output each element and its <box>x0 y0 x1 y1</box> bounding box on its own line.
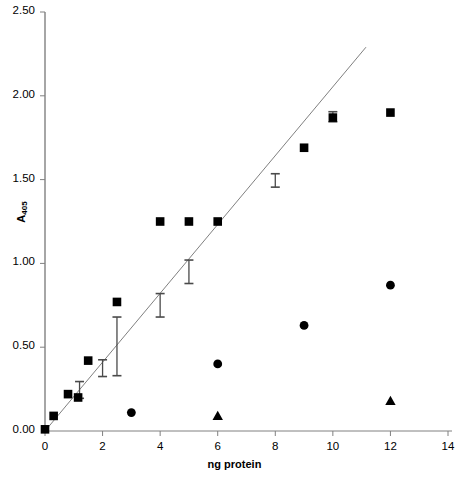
data-point-square <box>64 390 73 399</box>
data-point-square <box>300 143 309 152</box>
data-point-square <box>84 356 93 365</box>
y-axis-title: A405 <box>15 192 29 232</box>
error-bar <box>98 360 107 377</box>
y-axis-title-base: A <box>15 215 27 223</box>
y-tick-label: 1.00 <box>0 255 35 267</box>
x-tick-label: 2 <box>88 440 118 452</box>
x-axis-title: ng protein <box>0 458 469 470</box>
data-point-square <box>113 298 122 307</box>
regression-line-layer <box>45 47 366 431</box>
y-tick-label: 2.00 <box>0 88 35 100</box>
data-point-circle <box>300 321 309 330</box>
x-tick-label: 6 <box>203 440 233 452</box>
data-point-square <box>74 393 83 402</box>
x-tick-label: 14 <box>433 440 463 452</box>
data-point-triangle <box>385 396 395 405</box>
y-tick-label: 0.00 <box>0 423 35 435</box>
x-tick-label: 10 <box>318 440 348 452</box>
y-axis-title-subscript: 405 <box>20 201 29 214</box>
x-tick-label: 12 <box>375 440 405 452</box>
data-point-square <box>386 108 395 117</box>
data-point-circle <box>213 360 222 369</box>
regression-line <box>45 47 366 431</box>
data-point-square <box>156 217 165 226</box>
data-point-square <box>329 113 338 122</box>
axes-layer <box>40 12 452 436</box>
data-point-triangle <box>213 411 223 420</box>
data-point-circle <box>386 281 395 290</box>
y-tick-label: 0.50 <box>0 339 35 351</box>
x-tick-label: 8 <box>260 440 290 452</box>
data-point-square <box>49 412 58 421</box>
error-bars-layer <box>75 112 337 399</box>
data-point-square <box>41 425 50 434</box>
x-tick-label: 4 <box>145 440 175 452</box>
plot-canvas <box>0 0 469 483</box>
scatter-chart-figure: 0.000.501.001.502.002.50 02468101214 A40… <box>0 0 469 483</box>
data-point-square <box>213 217 222 226</box>
data-point-circle <box>127 408 136 417</box>
data-markers-layer <box>41 108 396 433</box>
error-bar <box>184 260 193 283</box>
x-tick-label: 0 <box>30 440 60 452</box>
data-point-square <box>185 217 194 226</box>
y-tick-label: 2.50 <box>0 4 35 16</box>
y-tick-label: 1.50 <box>0 172 35 184</box>
error-bar <box>112 317 121 376</box>
error-bar <box>271 174 280 187</box>
